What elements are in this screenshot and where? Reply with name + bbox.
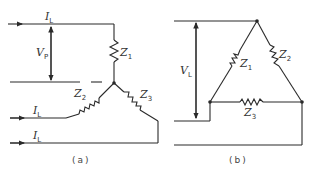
label-vl: VL <box>180 64 192 79</box>
label-z3-a: Z3 <box>139 88 152 103</box>
label-vp: VP <box>36 46 48 61</box>
three-phase-diagram: IL VP Z1 Z2 Z3 IL IL (a) <box>0 0 313 174</box>
caption-b: (b) <box>229 155 248 165</box>
label-il-top: IL <box>44 10 53 25</box>
label-z1-b: Z1 <box>239 57 252 72</box>
resistor-z1-b <box>230 50 240 66</box>
resistor-z3-a <box>124 92 141 110</box>
resistor-z3-b <box>240 99 263 105</box>
label-z2-b: Z2 <box>278 48 291 63</box>
label-z1-a: Z1 <box>119 46 132 61</box>
label-il-bottom: IL <box>32 129 41 144</box>
label-il-mid: IL <box>32 104 41 119</box>
caption-a: (a) <box>72 155 91 165</box>
label-z3-b: Z3 <box>243 106 256 121</box>
resistor-z2-b <box>270 45 279 66</box>
label-z2-a: Z2 <box>73 87 86 102</box>
panel-b-delta-connection: VL Z1 Z2 Z3 (b) <box>174 19 304 165</box>
panel-a-star-connection: IL VP Z1 Z2 Z3 IL IL (a) <box>8 10 158 165</box>
resistor-z1-a <box>110 40 118 62</box>
